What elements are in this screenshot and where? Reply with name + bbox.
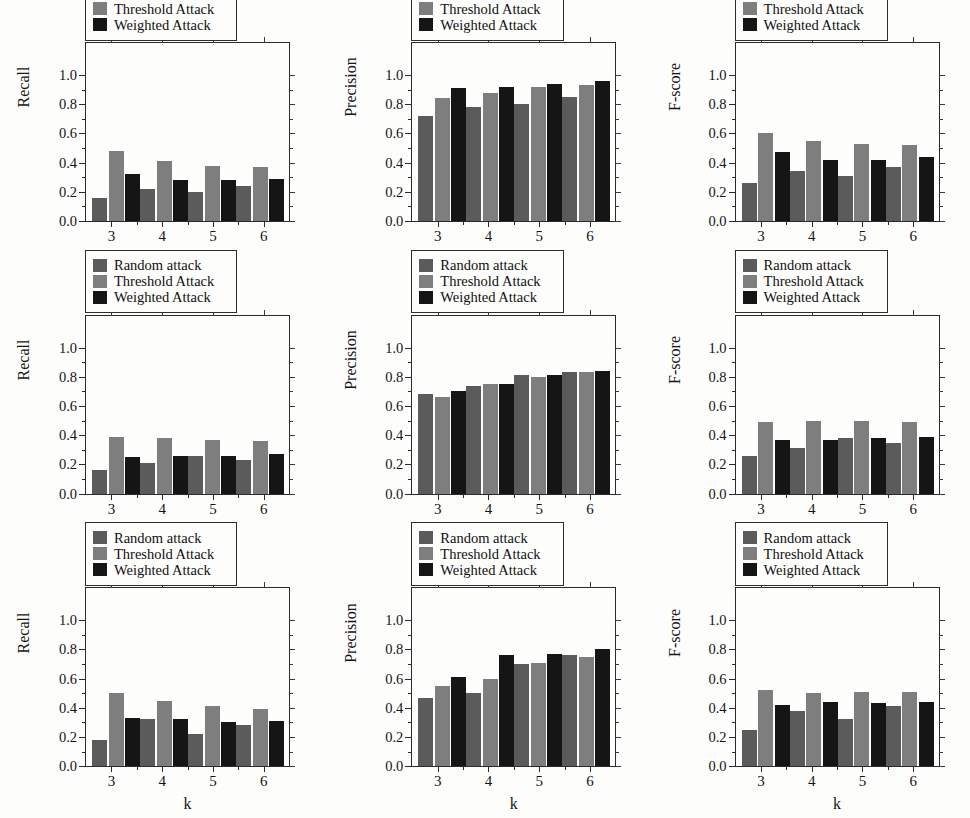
x-tick-label: 5 [209, 773, 217, 790]
y-tick-major [79, 221, 86, 222]
y-tick-label: 0.0 [385, 213, 403, 230]
bar-weighted-attack-k6 [269, 454, 284, 493]
y-tick-minor-right [615, 635, 619, 636]
x-tick-label: 4 [158, 773, 166, 790]
legend-label: Threshold Attack [440, 547, 540, 562]
legend-label: Weighted Attack [764, 18, 861, 33]
bar-weighted-attack-k4 [173, 456, 188, 494]
x-tick-minor [565, 494, 566, 498]
y-tick-right [289, 737, 295, 738]
bar-group-k-5 [514, 588, 562, 766]
y-tick-minor-right [615, 148, 619, 149]
chart-legend: Random attackThreshold AttackWeighted At… [411, 522, 564, 586]
y-tick-major [729, 435, 736, 436]
bar-weighted-attack-k6 [595, 371, 610, 494]
bar-random-attack-k6 [562, 372, 577, 493]
bar-random-attack-k4 [466, 107, 481, 221]
bar-weighted-attack-k4 [173, 180, 188, 221]
bar-random-attack-k5 [514, 375, 529, 493]
x-tick-label: 4 [485, 773, 493, 790]
y-tick-label: 0.2 [59, 456, 77, 473]
bar-weighted-attack-k6 [919, 437, 934, 494]
bar-threshold-attack-k6 [902, 422, 917, 494]
x-tick-label: 4 [158, 501, 166, 518]
legend-swatch-threshold-attack-icon [419, 547, 433, 560]
x-tick-label: 3 [434, 228, 442, 245]
chart-legend: Random attackThreshold AttackWeighted At… [735, 522, 888, 586]
bar-weighted-attack-k4 [823, 440, 838, 494]
y-tick-label: 0.2 [59, 183, 77, 200]
y-axis-label: F-score [666, 63, 684, 111]
x-tick-label: 3 [757, 501, 765, 518]
legend-item-threshold-attack: Threshold Attack [743, 547, 880, 562]
bar-group-k-4 [140, 588, 188, 766]
plot-area: 0.00.20.40.60.81.03456 [735, 42, 940, 222]
x-tick-major [111, 494, 112, 500]
bar-group-k-4 [140, 316, 188, 494]
y-tick-minor-right [615, 479, 619, 480]
bar-random-attack-k6 [562, 97, 577, 221]
y-tick-major [729, 406, 736, 407]
y-tick-right [939, 221, 945, 222]
y-tick-right [289, 464, 295, 465]
chart-panel-aol-fscore: AOL0.00.20.40.60.81.03456Random attackTh… [647, 0, 970, 273]
y-tick-label: 0.2 [59, 728, 77, 745]
bar-random-attack-k3 [92, 470, 107, 493]
bar-group-k-6 [562, 43, 610, 221]
legend-swatch-random-attack-icon [743, 531, 757, 544]
y-tick-label: 0.8 [59, 368, 77, 385]
y-tick-major [405, 708, 412, 709]
y-tick-right [289, 192, 295, 193]
x-tick-minor [188, 494, 189, 498]
y-tick-label: 1.0 [708, 339, 726, 356]
x-tick-major [761, 221, 762, 227]
y-tick-right [939, 348, 945, 349]
x-tick-minor [565, 766, 566, 770]
y-tick-major [405, 649, 412, 650]
y-tick-minor-right [289, 362, 293, 363]
y-tick-right [939, 75, 945, 76]
x-tick-minor [137, 494, 138, 498]
y-tick-right [615, 464, 621, 465]
x-axis-label: k [85, 795, 290, 813]
bar-group-k-3 [92, 588, 140, 766]
y-tick-minor-right [615, 450, 619, 451]
bar-random-attack-k4 [790, 171, 805, 221]
legend-item-threshold-attack: Threshold Attack [93, 274, 229, 289]
y-tick-minor-right [289, 450, 293, 451]
bar-weighted-attack-k3 [451, 391, 466, 493]
legend-swatch-threshold-attack-icon [419, 275, 433, 288]
y-tick-right [615, 737, 621, 738]
bar-random-attack-k3 [742, 730, 757, 766]
y-tick-label: 1.0 [708, 612, 726, 629]
y-tick-major [405, 494, 412, 495]
y-tick-major [79, 766, 86, 767]
y-tick-minor-right [615, 693, 619, 694]
y-tick-right [289, 406, 295, 407]
x-tick-minor [137, 221, 138, 225]
y-tick-label: 0.8 [59, 96, 77, 113]
y-tick-major [729, 75, 736, 76]
y-tick-minor-right [615, 421, 619, 422]
legend-item-weighted-attack: Weighted Attack [93, 563, 229, 578]
y-tick-major [79, 649, 86, 650]
y-tick-label: 0.8 [59, 641, 77, 658]
y-tick-label: 0.4 [59, 699, 77, 716]
x-tick-label: 4 [485, 501, 493, 518]
legend-label: Weighted Attack [114, 290, 211, 305]
y-tick-minor-right [615, 391, 619, 392]
x-tick-major [213, 494, 214, 500]
bar-series-container [412, 43, 615, 221]
legend-item-random-attack: Random attack [419, 258, 556, 273]
x-tick-minor [514, 221, 515, 225]
bar-weighted-attack-k6 [595, 81, 610, 221]
y-tick-label: 0.2 [708, 183, 726, 200]
bar-random-attack-k5 [188, 734, 203, 766]
bar-threshold-attack-k5 [531, 87, 546, 221]
y-tick-label: 0.8 [385, 641, 403, 658]
y-tick-major [729, 192, 736, 193]
x-tick-label: 6 [260, 228, 268, 245]
y-tick-major [405, 221, 412, 222]
y-tick-minor-right [289, 119, 293, 120]
y-tick-minor-right [939, 148, 943, 149]
